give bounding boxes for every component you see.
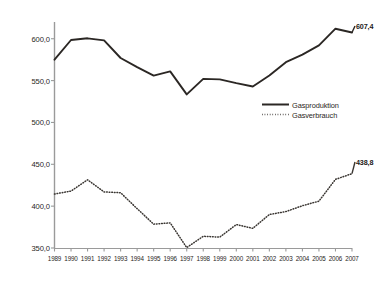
x-axis-tick-label: 1997 (180, 255, 193, 262)
endpoint-label-gasverbrauch: 438,8 (356, 158, 373, 167)
x-axis-tick-label: 1994 (130, 255, 143, 262)
y-axis-tick-label: 600,0 (8, 34, 50, 43)
endpoint-leader-line (352, 26, 355, 33)
x-axis-tick-label: 1999 (213, 255, 226, 262)
x-axis-tick-label: 1990 (64, 255, 77, 262)
x-axis-tick-label: 2001 (246, 255, 259, 262)
x-axis-tick-label: 1995 (147, 255, 160, 262)
x-axis-tick-label: 1989 (48, 255, 61, 262)
legend-item-gasverbrauch: Gasverbrauch (292, 111, 337, 120)
series-line-gasproduktion (55, 29, 353, 95)
x-axis-tick-label: 1993 (114, 255, 127, 262)
y-axis-tick-label: 550,0 (8, 76, 50, 85)
x-axis-tick-label: 2003 (279, 255, 292, 262)
legend-item-gasproduktion: Gasproduktion (292, 101, 339, 110)
x-axis-tick-label: 2006 (329, 255, 342, 262)
chart-plot-area (0, 0, 379, 286)
x-axis-tick-label: 2000 (230, 255, 243, 262)
series-lines (55, 29, 353, 248)
endpoint-leader-line (352, 162, 355, 174)
x-axis-tick-label: 1996 (163, 255, 176, 262)
y-axis-tick-label: 500,0 (8, 118, 50, 127)
axis-lines (55, 22, 353, 249)
x-axis-tick-label: 1992 (97, 255, 110, 262)
chart-container: 350,0400,0450,0500,0550,0600,0 198919901… (0, 0, 379, 286)
y-axis-tick-label: 450,0 (8, 160, 50, 169)
endpoint-leader-lines (352, 26, 355, 174)
endpoint-label-gasproduktion: 607,4 (356, 22, 373, 31)
legend-swatches (262, 105, 289, 115)
x-axis-tick-label: 2002 (263, 255, 276, 262)
series-line-gasverbrauch (55, 174, 353, 248)
x-axis-tick-label: 1998 (197, 255, 210, 262)
x-axis-tick-label: 2007 (345, 255, 358, 262)
y-axis-tick-label: 350,0 (8, 244, 50, 253)
x-axis-tick-label: 1991 (81, 255, 94, 262)
x-axis-tick-label: 2005 (312, 255, 325, 262)
x-axis-tick-label: 2004 (296, 255, 309, 262)
y-axis-tick-label: 400,0 (8, 202, 50, 211)
